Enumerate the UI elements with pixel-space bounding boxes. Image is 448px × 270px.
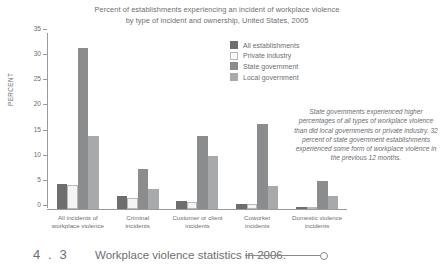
y-axis-tick-label: 35 xyxy=(34,26,41,33)
bar xyxy=(208,156,219,209)
y-axis-tick xyxy=(43,130,47,131)
chart-title: Percent of establishments experiencing a… xyxy=(52,5,382,26)
bar xyxy=(176,201,187,209)
bar xyxy=(127,198,138,209)
bar xyxy=(197,136,208,209)
bar xyxy=(57,184,68,209)
legend-label: State government xyxy=(243,63,298,70)
legend-label: Private industry xyxy=(243,52,291,59)
bar xyxy=(67,185,78,209)
bar xyxy=(138,169,149,209)
legend-swatch-icon xyxy=(230,41,238,49)
bar xyxy=(247,204,258,209)
legend-item-private-industry: Private industry xyxy=(230,51,299,62)
bar xyxy=(117,196,128,209)
y-axis-tick-label: 20 xyxy=(34,101,41,108)
x-axis-category-label-line: Domestic violence xyxy=(281,214,353,222)
y-axis-title: PERCENT xyxy=(7,73,14,106)
legend-item-all-establishments: All establishments xyxy=(230,40,299,51)
bar xyxy=(317,181,328,209)
x-axis-category-label: Domestic violenceincidents xyxy=(281,214,353,230)
bar-group: Criminalincidents xyxy=(108,33,168,209)
bar-group-bars xyxy=(108,33,168,209)
y-axis-tick xyxy=(43,205,47,206)
bar xyxy=(78,48,89,209)
chart-figure: Percent of establishments experiencing a… xyxy=(0,0,448,240)
y-axis-tick-label: 0 xyxy=(37,202,41,209)
x-axis-category-label-line: incidents xyxy=(281,222,353,230)
y-axis-tick-label: 25 xyxy=(34,76,41,83)
y-axis-tick xyxy=(43,54,47,55)
y-axis-tick xyxy=(43,104,47,105)
caption-rule xyxy=(245,255,320,256)
chart-legend: All establishments Private industry Stat… xyxy=(230,40,299,82)
figure-caption: 4 . 3 Workplace violence statistics in 2… xyxy=(0,240,448,270)
bar xyxy=(296,207,307,210)
figure-page: Percent of establishments experiencing a… xyxy=(0,0,448,270)
legend-swatch-icon xyxy=(230,73,238,81)
bar xyxy=(148,189,159,209)
legend-item-state-government: State government xyxy=(230,61,299,72)
chart-title-line-1: Percent of establishments experiencing a… xyxy=(52,5,382,16)
bar xyxy=(187,202,198,209)
caption-number: 4 . 3 xyxy=(33,247,69,262)
legend-swatch-icon xyxy=(230,62,238,70)
bar xyxy=(307,207,318,210)
chart-title-line-2: by type of incident and ownership, Unite… xyxy=(52,16,382,27)
y-axis-tick-label: 5 xyxy=(37,177,41,184)
x-axis-line xyxy=(47,209,347,210)
bar-group-bars xyxy=(48,33,108,209)
caption-endpoint-icon xyxy=(320,252,328,260)
bar-group: Customer or clientincidents xyxy=(168,33,228,209)
y-axis-tick xyxy=(43,79,47,80)
bar xyxy=(257,124,268,209)
bar-group: All incidents ofworkplace violence xyxy=(48,33,108,209)
y-axis-tick-label: 30 xyxy=(34,51,41,58)
bar xyxy=(328,196,339,209)
y-axis-tick xyxy=(43,29,47,30)
y-axis-tick-label: 15 xyxy=(34,126,41,133)
y-axis-tick-label: 10 xyxy=(34,151,41,158)
legend-swatch-icon xyxy=(230,52,238,60)
y-axis-tick xyxy=(43,180,47,181)
legend-label: All establishments xyxy=(243,42,299,49)
bar xyxy=(236,204,247,209)
bar xyxy=(268,186,279,209)
legend-label: Local government xyxy=(243,74,299,81)
bar-group-bars xyxy=(168,33,228,209)
bar xyxy=(88,136,99,209)
y-axis-tick xyxy=(43,155,47,156)
chart-annotation: State governments experienced higher per… xyxy=(293,107,439,163)
legend-item-local-government: Local government xyxy=(230,72,299,83)
